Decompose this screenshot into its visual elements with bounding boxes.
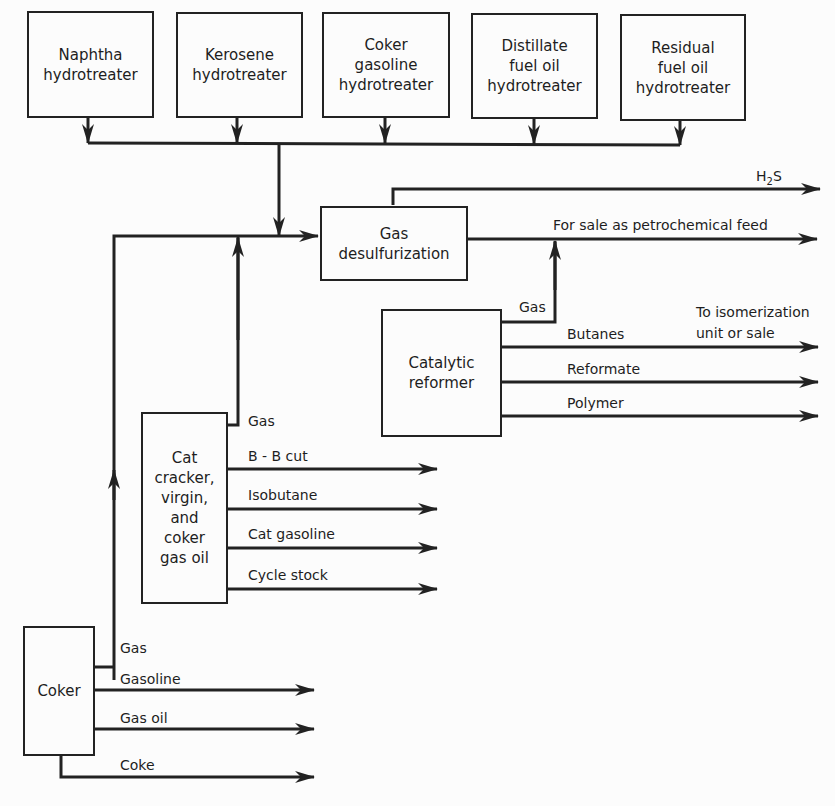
unit-label: fuel oil: [509, 56, 559, 76]
unit-label: gas oil: [160, 548, 209, 568]
gas-oil-label: Gas oil: [120, 710, 168, 726]
unit-label: hydrotreater: [487, 76, 581, 96]
distillate-fuel-oil-hydrotreater-box: Distillate fuel oil hydrotreater: [471, 13, 598, 119]
isomerization-note-line2: unit or sale: [696, 325, 775, 341]
cat-cracker-gas-label: Gas: [248, 413, 275, 429]
unit-label: virgin,: [161, 488, 208, 508]
unit-label: Cat: [172, 448, 198, 468]
cat-cracker-box: Cat cracker, virgin, and coker gas oil: [141, 412, 228, 604]
reformer-gas-label: Gas: [519, 299, 546, 315]
unit-label: hydrotreater: [192, 65, 286, 85]
unit-label: fuel oil: [658, 58, 708, 78]
polymer-label: Polymer: [567, 395, 624, 411]
catalytic-reformer-box: Catalytic reformer: [381, 309, 502, 437]
unit-label: Coker: [364, 35, 407, 55]
unit-label: hydrotreater: [636, 78, 730, 98]
unit-label: and: [170, 508, 198, 528]
unit-label: reformer: [409, 373, 474, 393]
unit-label: hydrotreater: [339, 75, 433, 95]
unit-label: Kerosene: [205, 45, 274, 65]
kerosene-hydrotreater-box: Kerosene hydrotreater: [176, 12, 303, 118]
unit-label: hydrotreater: [43, 65, 137, 85]
cycle-stock-label: Cycle stock: [248, 567, 328, 583]
gas-desulfurization-box: Gas desulfurization: [320, 206, 468, 281]
coke-label: Coke: [120, 757, 155, 773]
reformate-label: Reformate: [567, 361, 640, 377]
unit-label: cracker,: [154, 468, 214, 488]
coker-gas-label: Gas: [120, 640, 147, 656]
unit-label: Distillate: [501, 36, 567, 56]
unit-label: Catalytic: [408, 353, 474, 373]
butanes-label: Butanes: [567, 326, 624, 342]
coker-box: Coker: [23, 626, 95, 756]
naphtha-hydrotreater-box: Naphtha hydrotreater: [27, 11, 154, 118]
h2s-label: H2S: [756, 168, 782, 190]
unit-label: Gas: [380, 224, 409, 244]
unit-label: Coker: [37, 681, 80, 701]
unit-label: coker: [164, 528, 205, 548]
residual-fuel-oil-hydrotreater-box: Residual fuel oil hydrotreater: [620, 14, 746, 121]
isomerization-note-line1: To isomerization: [696, 304, 810, 320]
unit-label: desulfurization: [338, 244, 449, 264]
unit-label: Naphtha: [58, 45, 122, 65]
bb-cut-label: B - B cut: [248, 448, 308, 464]
petrochemical-feed-label: For sale as petrochemical feed: [553, 217, 768, 233]
unit-label: Residual: [651, 38, 714, 58]
coker-gasoline-hydrotreater-box: Coker gasoline hydrotreater: [322, 12, 450, 118]
isobutane-label: Isobutane: [248, 487, 317, 503]
coker-gasoline-label: Gasoline: [120, 671, 181, 687]
cat-gasoline-label: Cat gasoline: [248, 526, 335, 542]
unit-label: gasoline: [355, 55, 418, 75]
